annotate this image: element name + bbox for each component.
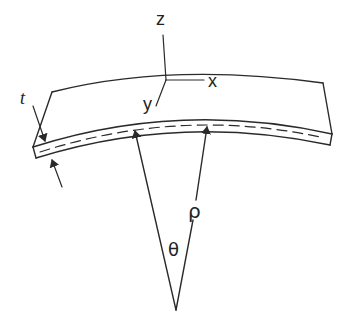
z-axis-line bbox=[163, 35, 166, 80]
radius-arrow-right-upper bbox=[196, 127, 207, 200]
radius-arrow-right-lower bbox=[176, 220, 193, 310]
radius-indicator: ρ θ bbox=[135, 127, 207, 310]
plate-left-thickness-edge bbox=[33, 147, 36, 158]
thickness-arrow-bottom bbox=[52, 160, 62, 187]
x-axis-label: x bbox=[208, 71, 217, 91]
thickness-arrow-top bbox=[33, 106, 45, 141]
plate-left-top-edge bbox=[33, 92, 52, 147]
radius-label: ρ bbox=[188, 199, 201, 223]
plate-front-top-edge bbox=[33, 120, 332, 147]
plate-top-surface bbox=[33, 74, 332, 147]
plate-right-top-edge bbox=[323, 83, 332, 134]
plate-front-face bbox=[33, 120, 332, 158]
plate-back-edge bbox=[52, 74, 323, 92]
curved-plate-diagram: z x y t ρ θ bbox=[0, 0, 352, 317]
thickness-label: t bbox=[20, 88, 26, 108]
plate-right-thickness-edge bbox=[330, 134, 332, 145]
coordinate-axes: z x y bbox=[143, 9, 217, 114]
plate-front-bottom-edge bbox=[36, 132, 330, 158]
dashed-neutral-surface bbox=[40, 125, 320, 152]
y-axis-label: y bbox=[143, 94, 152, 114]
angle-label: θ bbox=[168, 239, 179, 260]
thickness-indicator: t bbox=[20, 88, 62, 187]
radius-arrow-left bbox=[135, 131, 176, 310]
z-axis-label: z bbox=[156, 9, 165, 29]
y-axis-line bbox=[156, 80, 166, 106]
